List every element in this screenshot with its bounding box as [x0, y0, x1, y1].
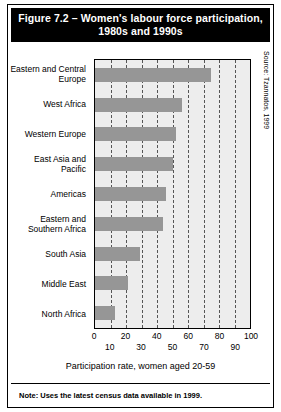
category-row: West Africa [8, 89, 90, 119]
bar [95, 98, 182, 112]
x-tick-label: 30 [136, 342, 145, 352]
bar-row [95, 149, 250, 179]
category-label: Americas [51, 189, 90, 199]
bar-row [95, 120, 250, 150]
bar-row [95, 268, 250, 298]
category-label: Eastern and Southern Africa [8, 214, 90, 234]
category-label: North Africa [42, 309, 90, 319]
bar-row [95, 239, 250, 269]
category-row: Western Europe [8, 119, 90, 149]
bar [95, 187, 166, 201]
x-tick-label: 10 [105, 342, 114, 352]
x-tick-label: 100 [244, 331, 258, 341]
x-tick-label: 80 [215, 331, 224, 341]
category-label: Eastern and Central Europe [8, 64, 90, 84]
x-axis-ticks: 0102030405060708090100 [94, 331, 251, 357]
category-label: South Asia [45, 249, 90, 259]
figure-title-bar: Figure 7.2 – Women's labour force partic… [11, 8, 270, 42]
category-row: Eastern and Southern Africa [8, 209, 90, 239]
category-label: East Asia and Pacific [8, 154, 90, 174]
x-tick-label: 90 [231, 342, 240, 352]
category-row: East Asia and Pacific [8, 149, 90, 179]
bar-series [95, 60, 250, 328]
bar-row [95, 209, 250, 239]
plot-region [94, 59, 251, 329]
note-divider [11, 383, 270, 384]
category-label: Western Europe [25, 129, 90, 139]
category-row: Eastern and Central Europe [8, 59, 90, 89]
bar [95, 68, 211, 82]
x-tick-label: 0 [92, 331, 97, 341]
category-row: North Africa [8, 299, 90, 329]
figure-note: Note: Uses the latest census data availa… [19, 391, 202, 400]
bar-row [95, 298, 250, 328]
category-axis-labels: Eastern and Central Europe West Africa W… [8, 59, 90, 329]
page-title: Figure 7.2 – Women's labour force partic… [11, 12, 270, 38]
figure-container: Figure 7.2 – Women's labour force partic… [7, 4, 274, 408]
chart-area: Eastern and Central Europe West Africa W… [8, 45, 273, 380]
x-tick-label: 50 [168, 342, 177, 352]
bar [95, 247, 140, 261]
bar [95, 306, 115, 320]
category-label: Middle East [42, 279, 90, 289]
x-tick-label: 20 [121, 331, 130, 341]
x-tick-label: 60 [183, 331, 192, 341]
bar-row [95, 60, 250, 90]
bar-row [95, 90, 250, 120]
category-row: Middle East [8, 269, 90, 299]
category-label: West Africa [43, 99, 90, 109]
bar [95, 217, 163, 231]
category-row: South Asia [8, 239, 90, 269]
x-tick-label: 40 [152, 331, 161, 341]
category-row: Americas [8, 179, 90, 209]
bar [95, 157, 173, 171]
bar [95, 127, 176, 141]
bar [95, 276, 128, 290]
bar-row [95, 179, 250, 209]
x-axis-title: Participation rate, women aged 20-59 [8, 361, 273, 371]
x-tick-label: 70 [199, 342, 208, 352]
